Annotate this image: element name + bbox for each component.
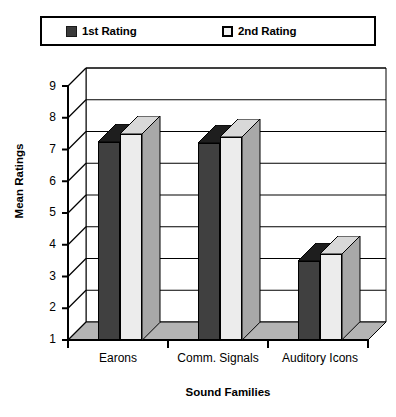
y-tick-label: 9 (40, 80, 56, 92)
y-tick-label: 8 (40, 111, 56, 123)
y-tick-label: 4 (40, 238, 56, 250)
bar-auditory-icons-series-2 (320, 236, 360, 340)
bar-side-panel (142, 116, 161, 340)
bar-chart: 1st Rating 2nd Rating Mean Ratings Sound… (0, 0, 396, 417)
x-tick-label-auditory-icons: Auditory Icons (268, 352, 372, 364)
y-tick-label: 6 (40, 175, 56, 187)
x-tick-label-comm-signals: Comm. Signals (166, 352, 270, 364)
bar-front-face (120, 134, 142, 340)
bar-side-panel (342, 236, 361, 340)
bar-side-panel (242, 119, 261, 340)
y-tick-label: 5 (40, 206, 56, 218)
bar-earons-series-2 (120, 116, 160, 340)
bar-comm-signals-series-2 (220, 119, 260, 340)
y-tick-label: 2 (40, 301, 56, 313)
x-axis-ticks (68, 340, 368, 348)
bar-front-face (298, 261, 320, 340)
x-tick-label-earons: Earons (78, 352, 158, 364)
bar-front-face (220, 137, 242, 340)
y-tick-label: 1 (40, 333, 56, 345)
y-tick-label: 7 (40, 143, 56, 155)
bar-front-face (198, 143, 220, 340)
bar-front-face (320, 254, 342, 340)
bar-front-face (98, 142, 120, 340)
y-tick-label: 3 (40, 270, 56, 282)
